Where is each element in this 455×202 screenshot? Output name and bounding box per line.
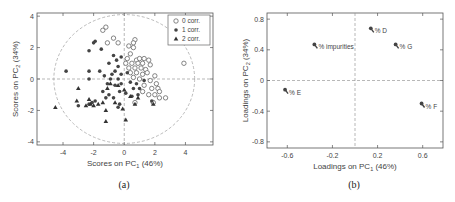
- y-tick-label: 4: [30, 13, 34, 20]
- loading-label: % F: [426, 103, 438, 110]
- filled-circle-marker: [64, 69, 68, 73]
- caption-cutoff: [0, 197, 455, 202]
- triangle-marker: [53, 105, 58, 109]
- y-tick-label: -4: [28, 138, 34, 145]
- loading-label: % impurities: [318, 43, 354, 51]
- filled-circle-marker: [174, 28, 178, 32]
- open-circle-marker: [182, 61, 186, 65]
- open-circle-marker: [137, 56, 141, 60]
- open-circle-marker: [150, 86, 154, 90]
- open-circle-marker: [131, 41, 135, 45]
- y-tick-label: 0: [260, 77, 264, 84]
- loading-point: % impurities: [312, 43, 354, 52]
- x-tick-label: 4: [183, 149, 187, 156]
- filled-circle-marker: [92, 41, 96, 45]
- triangle-marker: [76, 86, 81, 90]
- loadings-plot: -0.6-0.20.20.6-0.8-0.400.40.8Loadings on…: [241, 13, 443, 172]
- x-tick-label: -2: [91, 149, 97, 156]
- open-circle-marker: [131, 45, 135, 49]
- filled-circle-marker: [101, 90, 105, 94]
- y-tick-label: 0: [30, 76, 34, 83]
- open-circle-marker: [153, 93, 157, 97]
- open-circle-marker: [130, 61, 134, 65]
- filled-circle-marker: [116, 77, 120, 81]
- legend-entry: 1 corr.: [182, 26, 200, 33]
- filled-circle-marker: [115, 58, 119, 62]
- open-circle-marker: [142, 56, 146, 60]
- filled-circle-marker: [112, 96, 116, 100]
- open-circle-marker: [101, 28, 105, 32]
- filled-circle-marker: [107, 93, 111, 97]
- triangle-marker: [74, 99, 79, 103]
- open-circle-marker: [140, 89, 144, 93]
- open-circle-marker: [111, 36, 115, 40]
- filled-circle-marker: [103, 74, 107, 78]
- open-circle-marker: [131, 75, 135, 79]
- axis-label: Loadings on PC1 (46%): [313, 162, 397, 172]
- open-circle-marker: [116, 41, 120, 45]
- legend: 0 corr.1 corr.2 corr.: [168, 15, 210, 45]
- filled-circle-marker: [142, 79, 146, 83]
- loading-marker: [283, 88, 287, 92]
- loading-marker: [369, 26, 373, 30]
- loading-point: % G: [394, 43, 413, 51]
- filled-circle-marker: [118, 102, 122, 106]
- triangle-marker: [104, 119, 109, 123]
- x-tick-label: 0: [122, 149, 126, 156]
- filled-circle-marker: [98, 69, 102, 73]
- loading-marker: [394, 43, 398, 47]
- triangle-marker: [101, 100, 106, 104]
- figure-canvas: -4-2024-4-2024Scores on PC1 (46%)Scores …: [0, 0, 455, 202]
- filled-circle-marker: [87, 49, 91, 53]
- x-tick-label: 0.2: [373, 152, 383, 159]
- filled-circle-marker: [116, 65, 120, 69]
- scores-plot: -4-2024-4-2024Scores on PC1 (46%)Scores …: [11, 13, 213, 169]
- open-circle-marker: [157, 96, 161, 100]
- x-tick-label: 0.6: [418, 152, 428, 159]
- loading-marker: [420, 102, 424, 106]
- x-tick-label: -0.6: [281, 152, 293, 159]
- filled-circle-marker: [116, 105, 120, 109]
- open-circle-marker: [133, 66, 137, 70]
- panel-label-a: (a): [118, 179, 129, 191]
- open-circle-marker: [147, 58, 151, 62]
- open-circle-marker: [140, 61, 144, 65]
- loading-point: % F: [420, 102, 437, 110]
- filled-circle-marker: [99, 47, 103, 51]
- filled-circle-marker: [125, 71, 129, 75]
- x-tick-label: -0.2: [326, 152, 338, 159]
- filled-circle-marker: [104, 96, 108, 100]
- open-circle-marker: [140, 72, 144, 76]
- filled-circle-marker: [124, 91, 128, 95]
- open-circle-marker: [128, 52, 132, 56]
- open-circle-marker: [154, 82, 158, 86]
- axis-label: Loadings on PC2 (34%): [241, 38, 251, 122]
- filled-circle-marker: [119, 55, 123, 59]
- open-circle-marker: [134, 71, 138, 75]
- filled-circle-marker: [93, 99, 97, 103]
- open-circle-marker: [148, 78, 152, 82]
- loading-label: % D: [375, 27, 388, 34]
- triangle-marker: [122, 88, 127, 92]
- filled-circle-marker: [119, 82, 123, 86]
- y-tick-label: 2: [30, 44, 34, 51]
- axis-label: Scores on PC2 (34%): [11, 41, 21, 117]
- loading-label: % G: [400, 43, 413, 50]
- open-circle-marker: [145, 71, 149, 75]
- filled-circle-marker: [132, 87, 136, 91]
- open-circle-marker: [153, 74, 157, 78]
- y-tick-label: -0.4: [252, 108, 264, 115]
- open-circle-marker: [148, 63, 152, 67]
- filled-circle-marker: [107, 61, 111, 65]
- open-circle-marker: [124, 61, 128, 65]
- panel-label-b: (b): [348, 179, 360, 191]
- open-circle-marker: [127, 66, 131, 70]
- y-tick-label: 0.4: [254, 46, 264, 53]
- open-circle-marker: [105, 41, 109, 45]
- open-circle-marker: [157, 89, 161, 93]
- legend-entry: 0 corr.: [182, 17, 200, 24]
- triangle-marker: [96, 102, 101, 106]
- filled-circle-marker: [77, 104, 81, 108]
- open-circle-marker: [127, 44, 131, 48]
- x-tick-label: 2: [153, 149, 157, 156]
